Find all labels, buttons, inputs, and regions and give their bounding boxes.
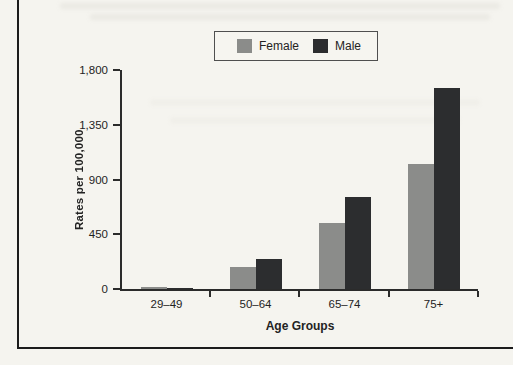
figure-border-bottom [17, 347, 513, 349]
legend-item-male: Male [313, 39, 361, 53]
x-category-label: 65–74 [300, 298, 389, 310]
chart-legend: Female Male [214, 31, 378, 61]
scan-bleed-artifact [90, 14, 490, 20]
x-tick-mark [388, 291, 390, 297]
x-label-row: 29–4950–6465–7475+ [122, 298, 478, 310]
y-axis: 04509001,3501,800 [48, 70, 120, 289]
bar-male [345, 197, 371, 289]
y-tick-label: 1,350 [79, 119, 108, 131]
bar-male [167, 288, 193, 289]
legend-label-male: Male [335, 39, 361, 53]
x-axis-title: Age Groups [122, 319, 478, 333]
bar-male [434, 88, 460, 289]
y-tick-label: 900 [89, 174, 108, 186]
x-category-label: 29–49 [122, 298, 211, 310]
bar-female [141, 287, 167, 289]
x-tick-mark [209, 291, 211, 297]
bar-female [230, 267, 256, 289]
female-swatch-icon [237, 39, 252, 53]
legend-label-female: Female [259, 39, 299, 53]
bar-group [300, 70, 389, 289]
x-category-label: 75+ [389, 298, 478, 310]
y-tick-mark [113, 69, 120, 71]
bar-group [389, 70, 478, 289]
scanned-figure: Female Male Rates per 100,000 04509001,3… [0, 0, 513, 365]
bar-female [319, 223, 345, 289]
x-tick-row [120, 291, 478, 298]
y-tick-mark [113, 233, 120, 235]
bar-group [122, 70, 211, 289]
bar-male [256, 259, 282, 289]
y-tick-mark [113, 124, 120, 126]
y-tick-label: 450 [89, 228, 108, 240]
x-tick-mark [298, 291, 300, 297]
x-category-label: 50–64 [211, 298, 300, 310]
male-swatch-icon [313, 39, 328, 53]
figure-border-left [17, 0, 19, 349]
y-tick-mark [113, 288, 120, 290]
y-tick-mark [113, 179, 120, 181]
scan-bleed-artifact [60, 3, 500, 9]
y-tick-label: 1,800 [79, 64, 108, 76]
plot-area [120, 70, 478, 291]
x-tick-mark [477, 291, 479, 297]
legend-item-female: Female [237, 39, 299, 53]
y-tick-label: 0 [102, 283, 108, 295]
bar-female [408, 164, 434, 289]
bar-group [211, 70, 300, 289]
